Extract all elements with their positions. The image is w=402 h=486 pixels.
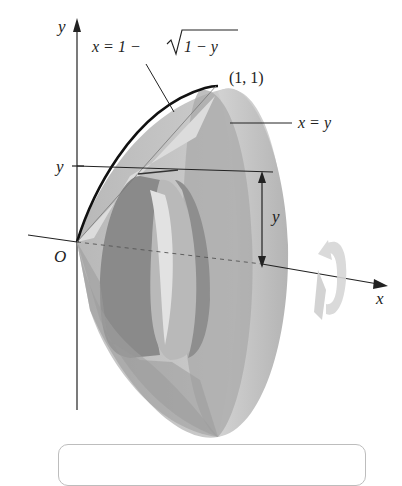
- y-tick-label: y: [54, 157, 64, 176]
- y-axis: [73, 18, 81, 410]
- origin-label: O: [54, 247, 66, 266]
- inner-curve-label: x = y: [297, 114, 332, 132]
- caption-box: [58, 444, 366, 486]
- y-axis-label: y: [56, 17, 66, 36]
- radius-label: y: [270, 207, 280, 226]
- rotation-arrow-icon: [314, 240, 346, 320]
- outer-curve-label: x = 1 − 1 − y: [91, 30, 238, 56]
- point-label: (1, 1): [229, 69, 264, 87]
- solid-body: [77, 88, 288, 437]
- svg-text:x = 1 −: x = 1 −: [91, 38, 141, 55]
- svg-text:1 − y: 1 − y: [184, 38, 219, 56]
- outer-curve-leader: [146, 64, 174, 112]
- x-axis-label: x: [375, 289, 384, 308]
